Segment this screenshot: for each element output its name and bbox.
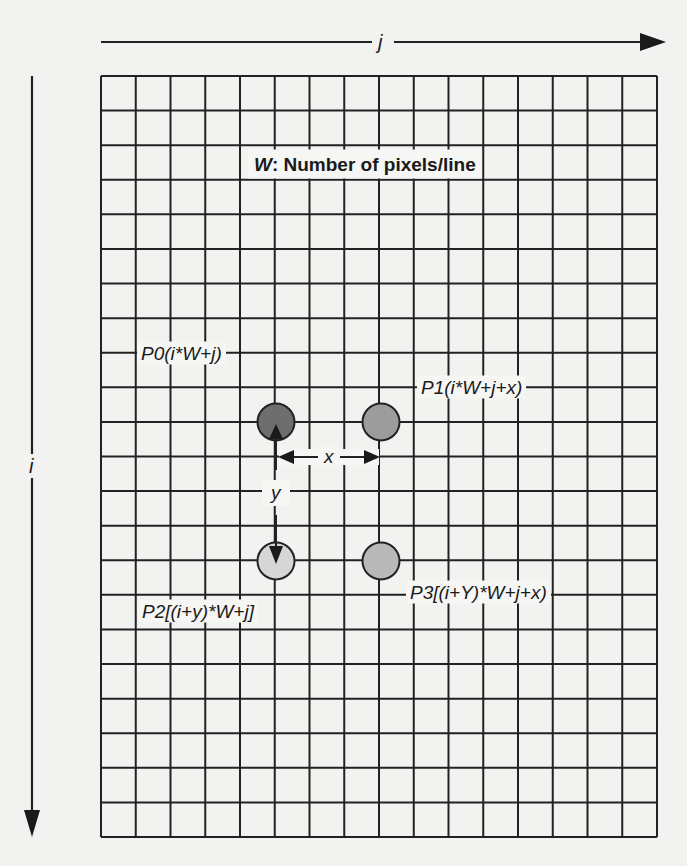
arrow-right-icon — [640, 33, 666, 51]
point-p3-label: P3[(i+Y)*W+j+x) — [406, 581, 551, 604]
point-p1-label: P1(i*W+j+x) — [417, 376, 526, 399]
j-axis-label: j — [375, 30, 385, 54]
arrow-down-icon — [24, 810, 40, 837]
diagram-canvas — [0, 0, 687, 866]
diagram-title: W: Number of pixels/line — [248, 150, 482, 179]
i-axis-label: i — [26, 454, 36, 478]
pixel-grid-diagram: j i W: Number of pixels/line P0(i*W+j) P… — [0, 0, 687, 866]
point-p2-label: P2[(i+y)*W+j] — [138, 600, 258, 623]
point-p1-marker — [363, 404, 400, 441]
title-variable: W — [254, 154, 272, 175]
y-offset-label: y — [268, 482, 284, 503]
x-offset-label: x — [321, 446, 337, 467]
title-text: : Number of pixels/line — [272, 154, 476, 175]
point-p0-label: P0(i*W+j) — [137, 342, 226, 365]
point-p3-marker — [363, 543, 400, 580]
